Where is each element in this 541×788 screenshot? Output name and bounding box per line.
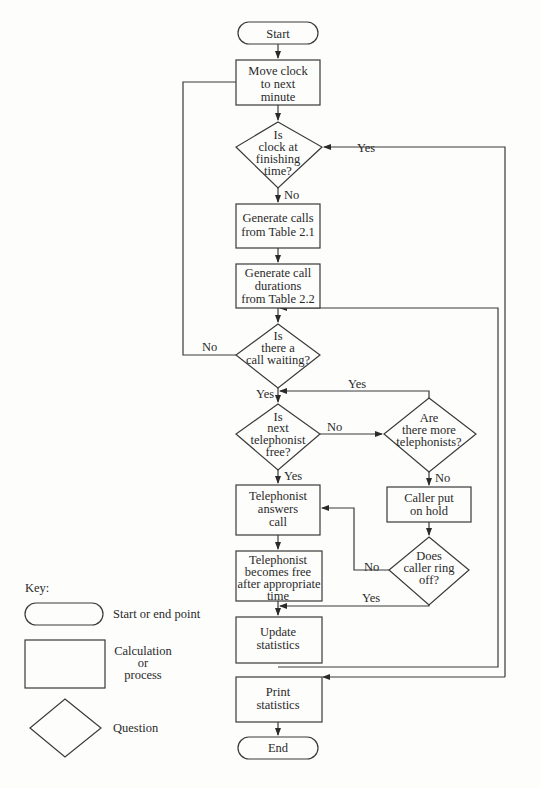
label-no: No	[327, 420, 342, 434]
svg-text:Start or end point: Start or end point	[113, 607, 201, 621]
ring-off-decision: Does caller ring off?	[389, 537, 469, 605]
svg-text:Generate calls: Generate calls	[242, 211, 313, 225]
svg-text:free?: free?	[266, 445, 291, 459]
svg-text:Caller put: Caller put	[404, 491, 454, 505]
key-title: Key:	[25, 581, 49, 595]
label-yes: Yes	[357, 141, 375, 155]
svg-text:on hold: on hold	[410, 504, 449, 518]
label-yes: Yes	[284, 469, 302, 483]
svg-text:from Table 2.2: from Table 2.2	[241, 292, 315, 306]
svg-text:telephonists?: telephonists?	[396, 435, 462, 449]
label-no: No	[284, 188, 299, 202]
flowchart-diagram: Start Move clock to next minute Is clock…	[0, 0, 541, 788]
svg-text:Update: Update	[260, 625, 297, 639]
generate-durations-box: Generate call durations from Table 2.2	[236, 264, 320, 308]
svg-text:Generate call: Generate call	[245, 266, 312, 280]
answers-call-box: Telephonist answers call	[236, 485, 320, 535]
key-terminator: Start or end point	[25, 603, 201, 625]
svg-text:time: time	[267, 589, 290, 603]
print-statistics-box: Print statistics	[236, 677, 322, 722]
svg-text:off?: off?	[419, 573, 439, 587]
svg-text:statistics: statistics	[256, 638, 299, 652]
connector-more-yes	[280, 391, 429, 398]
finishing-time-decision: Is clock at finishing time?	[236, 122, 322, 188]
svg-text:End: End	[268, 741, 289, 755]
label-yes: Yes	[256, 387, 274, 401]
more-telephonists-decision: Are there more telephonists?	[384, 398, 476, 472]
start-node: Start	[238, 22, 318, 44]
svg-text:Move clock: Move clock	[248, 64, 308, 78]
svg-text:durations: durations	[255, 279, 302, 293]
svg-text:Print: Print	[266, 685, 291, 699]
becomes-free-box: Telephonist becomes free after appropria…	[236, 551, 322, 603]
svg-text:answers: answers	[258, 502, 298, 516]
svg-text:to next: to next	[261, 77, 296, 91]
telephonist-free-decision: Is next telephonist free?	[236, 404, 320, 470]
key-process: Calculation or process	[25, 640, 173, 688]
generate-calls-box: Generate calls from Table 2.1	[236, 204, 320, 248]
label-yes: Yes	[348, 377, 366, 391]
svg-text:from Table 2.1: from Table 2.1	[241, 225, 315, 239]
svg-text:time?: time?	[264, 164, 292, 178]
label-no: No	[364, 560, 379, 574]
svg-text:call: call	[269, 515, 288, 529]
label-yes: Yes	[362, 591, 380, 605]
svg-text:process: process	[124, 668, 162, 682]
label-no: No	[202, 340, 217, 354]
call-waiting-decision: Is there a call waiting?	[236, 324, 320, 388]
svg-text:Telephonist: Telephonist	[249, 489, 308, 503]
label-no: No	[435, 471, 450, 485]
svg-text:statistics: statistics	[256, 698, 299, 712]
svg-text:call waiting?: call waiting?	[246, 353, 311, 367]
svg-text:minute: minute	[261, 90, 296, 104]
svg-text:Question: Question	[113, 721, 159, 735]
connector-ringoff-yes	[280, 605, 429, 606]
svg-text:Start: Start	[266, 27, 290, 41]
caller-hold-box: Caller put on hold	[387, 487, 471, 522]
end-node: End	[238, 737, 318, 759]
update-statistics-box: Update statistics	[236, 617, 322, 663]
key-decision: Question	[30, 699, 159, 757]
move-clock-box: Move clock to next minute	[236, 60, 320, 105]
